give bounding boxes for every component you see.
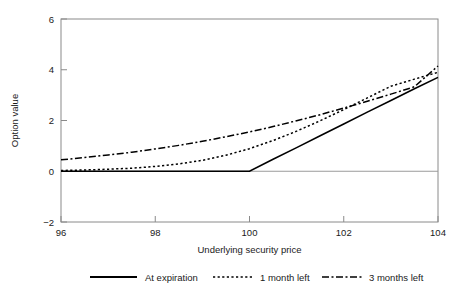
x-tick-label-98: 98 <box>150 227 161 238</box>
chart-svg: 6 4 2 0 −2 96 98 100 102 104 Option valu… <box>0 0 459 294</box>
x-tick-label-104: 104 <box>430 227 446 238</box>
y-tick-label-0: 0 <box>49 166 54 177</box>
chart-legend: At expiration 1 month left 3 months left <box>90 272 424 283</box>
x-tick-label-96: 96 <box>56 227 67 238</box>
x-axis-title: Underlying security price <box>197 244 301 255</box>
x-tick-label-102: 102 <box>336 227 352 238</box>
x-tick-label-100: 100 <box>242 227 258 238</box>
plot-area-frame <box>61 19 438 222</box>
y-axis-title: Option value <box>9 94 20 147</box>
legend-label-3-months-left: 3 months left <box>369 272 424 283</box>
y-tick-label-minus2: −2 <box>43 217 54 228</box>
legend-label-1-month-left: 1 month left <box>260 272 310 283</box>
option-value-chart: 6 4 2 0 −2 96 98 100 102 104 Option valu… <box>0 0 459 294</box>
y-tick-label-2: 2 <box>49 115 54 126</box>
y-tick-label-4: 4 <box>49 64 54 75</box>
legend-label-at-expiration: At expiration <box>145 272 198 283</box>
y-tick-label-6: 6 <box>49 14 54 25</box>
